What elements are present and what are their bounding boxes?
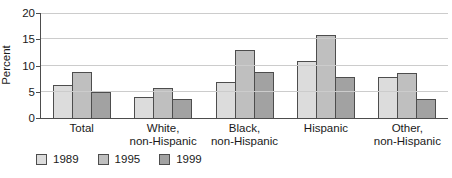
bar-white-non-hispanic-1995 (153, 88, 173, 118)
bar-hispanic-1999 (335, 77, 355, 118)
x-label-white-non-hispanic: White,non-Hispanic (122, 122, 203, 148)
y-tick-mark-0 (36, 118, 40, 119)
bar-hispanic-1989 (297, 61, 317, 118)
bar-black-non-hispanic-1995 (235, 50, 255, 118)
bar-total-1999 (91, 92, 111, 118)
legend-label-1995: 1995 (115, 153, 141, 165)
x-label-other-non-hispanic: Other,non-Hispanic (367, 122, 448, 148)
bar-white-non-hispanic-1999 (172, 99, 192, 118)
bar-black-non-hispanic-1999 (254, 72, 274, 118)
bar-group-hispanic (285, 13, 366, 118)
bar-groups (41, 13, 448, 118)
gridline-15 (41, 38, 448, 39)
gridline-20 (41, 13, 448, 14)
legend-swatch-1999 (159, 154, 170, 165)
bar-other-non-hispanic-1999 (416, 99, 436, 118)
bar-group-total (41, 13, 122, 118)
y-tick-mark-5 (36, 92, 40, 93)
gridline-10 (41, 65, 448, 66)
x-label-total: Total (41, 122, 122, 148)
bar-group-white-non-hispanic (122, 13, 203, 118)
y-tick-label-20: 20 (9, 6, 35, 20)
legend-item-1999: 1999 (159, 153, 202, 165)
y-tick-mark-10 (36, 66, 40, 67)
x-label-hispanic: Hispanic (285, 122, 366, 148)
legend-swatch-1989 (36, 154, 47, 165)
legend-swatch-1995 (98, 154, 109, 165)
bar-white-non-hispanic-1989 (134, 97, 154, 118)
legend: 198919951999 (36, 153, 221, 165)
legend-label-1989: 1989 (53, 153, 79, 165)
y-tick-mark-20 (36, 13, 40, 14)
bar-group-other-non-hispanic (367, 13, 448, 118)
y-tick-mark-15 (36, 39, 40, 40)
legend-item-1989: 1989 (36, 153, 79, 165)
y-tick-label-10: 10 (9, 59, 35, 73)
legend-item-1995: 1995 (98, 153, 141, 165)
y-tick-label-0: 0 (9, 111, 35, 125)
bar-black-non-hispanic-1989 (216, 82, 236, 118)
bar-chart-figure: Percent 05101520 TotalWhite,non-Hispanic… (0, 0, 452, 178)
legend-label-1999: 1999 (176, 153, 202, 165)
bar-other-non-hispanic-1995 (397, 73, 417, 118)
y-tick-label-5: 5 (9, 85, 35, 99)
plot-area (40, 13, 448, 119)
bar-total-1995 (72, 72, 92, 118)
bar-group-black-non-hispanic (204, 13, 285, 118)
x-axis-labels: TotalWhite,non-HispanicBlack,non-Hispani… (41, 122, 448, 148)
gridline-5 (41, 91, 448, 92)
bar-other-non-hispanic-1989 (378, 77, 398, 118)
x-label-black-non-hispanic: Black,non-Hispanic (204, 122, 285, 148)
bar-hispanic-1995 (316, 35, 336, 118)
y-tick-label-15: 15 (9, 32, 35, 46)
